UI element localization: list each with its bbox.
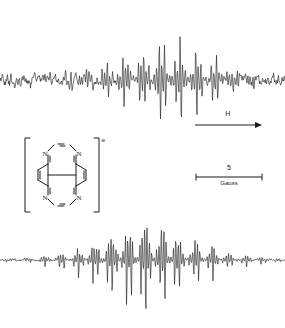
field-direction-arrow-group: H <box>193 110 263 132</box>
bracket-right <box>94 138 99 212</box>
gauss-scale-bar-group: 5 Gauss <box>193 164 265 192</box>
experimental-spectrum-svg <box>0 8 285 120</box>
esr-figure: H 5 Gauss <box>0 0 285 328</box>
bracket-left <box>25 138 30 212</box>
field-direction-arrow-icon <box>193 120 263 130</box>
atom-label-n-top-right: N <box>76 150 81 158</box>
simulated-spectrum-trace <box>0 212 285 324</box>
field-direction-label: H <box>193 110 263 118</box>
simulated-spectrum-svg <box>0 212 285 324</box>
tetraazapyrene-anion-diagram: N N N N ⊖ <box>20 132 112 218</box>
atom-label-n-bottom-right: N <box>76 194 81 202</box>
scale-bar-unit: Gauss <box>193 179 265 187</box>
experimental-spectrum-trace <box>0 8 285 120</box>
atom-label-n-bottom-left: N <box>42 194 47 202</box>
charge-symbol: ⊖ <box>101 137 105 143</box>
molecule-structure: N N N N ⊖ <box>20 132 112 218</box>
atom-label-n-top-left: N <box>42 150 47 158</box>
scale-bar-value: 5 <box>193 164 265 172</box>
